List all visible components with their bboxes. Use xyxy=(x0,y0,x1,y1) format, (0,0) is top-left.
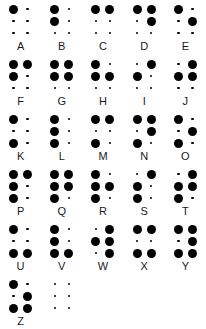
raised-dot-6-icon xyxy=(64,249,73,258)
raised-dot-4-icon xyxy=(23,60,32,69)
braille-cell-g: G xyxy=(41,55,82,108)
braille-cell-r: R xyxy=(82,165,123,218)
raised-dot-4-icon xyxy=(23,170,32,179)
flat-dot-2-icon xyxy=(136,240,139,243)
raised-dot-1-icon xyxy=(174,5,183,14)
braille-cell-label: D xyxy=(140,40,148,53)
braille-cell-blank xyxy=(41,275,82,315)
raised-dot-2-icon xyxy=(91,182,100,191)
braille-dot-grid-o xyxy=(171,113,199,149)
raised-dot-1-icon xyxy=(50,5,59,14)
braille-dot-grid-w xyxy=(89,223,117,259)
braille-cell-f: F xyxy=(0,55,41,108)
flat-dot-5-icon xyxy=(150,185,153,188)
braille-dot-grid-d xyxy=(130,3,158,39)
flat-dot-3-icon xyxy=(12,87,15,90)
flat-dot-4-icon xyxy=(68,8,71,11)
raised-dot-6-icon xyxy=(188,249,197,258)
raised-dot-3-icon xyxy=(91,194,100,203)
braille-dot-grid-v xyxy=(48,223,76,259)
raised-dot-2-icon xyxy=(133,72,142,81)
braille-cell-label: Z xyxy=(17,315,24,328)
flat-dot-3-icon xyxy=(54,32,57,35)
raised-dot-5-icon xyxy=(188,127,197,136)
flat-dot-6-icon xyxy=(26,32,29,35)
raised-dot-2-icon xyxy=(50,17,59,26)
raised-dot-4-icon xyxy=(147,225,156,234)
braille-cell-label: U xyxy=(17,260,25,273)
braille-cell-d: D xyxy=(124,0,165,53)
flat-dot-1-icon xyxy=(177,173,180,176)
braille-cell-m: M xyxy=(82,110,123,163)
braille-cell-label: V xyxy=(58,260,65,273)
flat-dot-4-icon xyxy=(26,283,29,286)
flat-dot-2-icon xyxy=(177,20,180,23)
raised-dot-3-icon xyxy=(50,139,59,148)
raised-dot-1-icon xyxy=(9,60,18,69)
flat-dot-6-icon xyxy=(191,32,194,35)
braille-cell-x: X xyxy=(124,220,165,273)
braille-cell-label: O xyxy=(181,150,190,163)
raised-dot-6-icon xyxy=(23,304,32,313)
raised-dot-4-icon xyxy=(105,115,114,124)
braille-dot-grid-a xyxy=(7,3,35,39)
flat-dot-3-icon xyxy=(177,87,180,90)
braille-cell-a: A xyxy=(0,0,41,53)
flat-dot-6-icon xyxy=(109,197,112,200)
flat-dot-5-icon xyxy=(26,130,29,133)
raised-dot-1-icon xyxy=(50,170,59,179)
flat-dot-6-icon xyxy=(150,87,153,90)
raised-dot-3-icon xyxy=(133,139,142,148)
braille-cell-label: E xyxy=(182,40,189,53)
flat-dot-4-icon xyxy=(109,173,112,176)
flat-dot-5-icon xyxy=(150,75,153,78)
flat-dot-6-icon xyxy=(68,142,71,145)
braille-dot-grid-blank xyxy=(48,278,76,314)
flat-dot-2-icon xyxy=(12,295,15,298)
flat-dot-3-icon xyxy=(136,32,139,35)
braille-dot-grid-p xyxy=(7,168,35,204)
flat-dot-4-icon xyxy=(68,118,71,121)
braille-dot-grid-l xyxy=(48,113,76,149)
braille-dot-grid-z xyxy=(7,278,35,314)
raised-dot-2-icon xyxy=(174,182,183,191)
braille-cell-n: N xyxy=(124,110,165,163)
braille-cell-label: C xyxy=(99,40,107,53)
braille-row: FGHIJ xyxy=(0,55,206,110)
raised-dot-3-icon xyxy=(9,139,18,148)
braille-cell-j: J xyxy=(165,55,206,108)
braille-cell-label: G xyxy=(58,95,67,108)
flat-dot-6-icon xyxy=(68,87,71,90)
braille-cell-label: F xyxy=(17,95,24,108)
flat-dot-6-icon xyxy=(150,142,153,145)
raised-dot-3-icon xyxy=(9,304,18,313)
raised-dot-5-icon xyxy=(188,72,197,81)
raised-dot-2-icon xyxy=(50,237,59,246)
braille-row: KLMNO xyxy=(0,110,206,165)
raised-dot-5-icon xyxy=(188,17,197,26)
braille-cell-u: U xyxy=(0,220,41,273)
braille-dot-grid-t xyxy=(171,168,199,204)
braille-dot-grid-m xyxy=(89,113,117,149)
braille-dot-grid-k xyxy=(7,113,35,149)
flat-dot-5-icon xyxy=(26,20,29,23)
raised-dot-4-icon xyxy=(147,5,156,14)
braille-cell-label: B xyxy=(58,40,65,53)
raised-dot-3-icon xyxy=(9,249,18,258)
braille-cell-label: W xyxy=(98,260,108,273)
braille-cell-t: T xyxy=(165,165,206,218)
flat-dot-3-icon xyxy=(95,252,98,255)
flat-dot-5-icon xyxy=(26,75,29,78)
raised-dot-4-icon xyxy=(105,5,114,14)
flat-dot-5-icon xyxy=(68,20,71,23)
flat-dot-6-icon xyxy=(191,142,194,145)
raised-dot-5-icon xyxy=(188,237,197,246)
braille-cell-label: J xyxy=(183,95,189,108)
braille-dot-grid-q xyxy=(48,168,76,204)
flat-dot-2-icon xyxy=(12,240,15,243)
raised-dot-1-icon xyxy=(91,115,100,124)
braille-cell-z: Z xyxy=(0,275,41,328)
flat-dot-6-icon xyxy=(109,87,112,90)
flat-dot-4-icon xyxy=(68,228,71,231)
braille-dot-grid-c xyxy=(89,3,117,39)
